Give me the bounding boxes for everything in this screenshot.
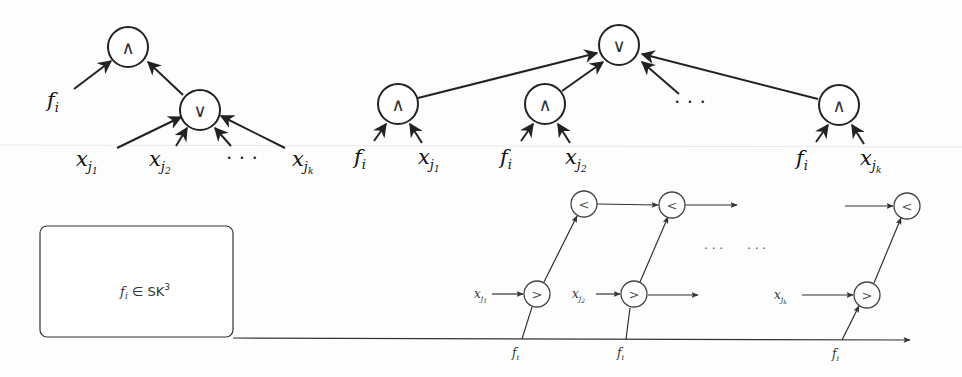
edge-xk-to-andk xyxy=(852,125,864,144)
edge-x2-to-or xyxy=(176,128,187,146)
label-ellipsis: · · · xyxy=(674,90,706,114)
label-x-jk: xjk xyxy=(860,146,881,175)
edge-gt1-to-lt1 xyxy=(544,216,577,282)
sk3-box xyxy=(40,226,233,337)
gt-comparator-node-k: > xyxy=(854,282,880,308)
or-gate-node: ∨ xyxy=(599,25,639,65)
diagram-canvas: ∧ ∨ fi xj1 xj2 · · · xjk ∨ ∧ xyxy=(0,0,962,377)
edge-x1-to-and1 xyxy=(410,124,422,143)
and-gate-node: ∧ xyxy=(108,27,148,67)
label-x-j2: xj2 xyxy=(565,145,587,174)
gt-comparator-node-2: > xyxy=(621,281,647,307)
and-operator: ∧ xyxy=(391,94,404,115)
panel-factored-circuit: ∧ ∨ fi xj1 xj2 · · · xjk xyxy=(45,27,313,176)
or-operator: ∨ xyxy=(193,100,206,121)
label-f-i: fi xyxy=(498,145,512,172)
edge-xk-to-or xyxy=(221,116,285,148)
or-gate-node: ∨ xyxy=(180,90,220,130)
and-operator: ∧ xyxy=(832,95,845,116)
label-x-jk: xjk xyxy=(292,147,313,176)
ellipsis-1: · · · xyxy=(704,242,723,256)
edge-lt1-to-lt2 xyxy=(597,204,658,205)
gt-operator: > xyxy=(862,288,873,303)
and-gate-node-1: ∧ xyxy=(378,84,418,124)
gt-operator: > xyxy=(629,287,640,302)
label-f-i: fi xyxy=(616,346,624,362)
lt-comparator-node-1: < xyxy=(571,191,597,217)
edge-andk-to-or xyxy=(642,54,818,99)
label-x-jk: xjk xyxy=(774,288,787,305)
edge-x2-to-and2 xyxy=(558,124,570,143)
or-operator: ∨ xyxy=(612,35,625,56)
label-x-j2: xj2 xyxy=(149,147,171,176)
label-f-i: fi xyxy=(831,347,839,363)
baseline-arrow xyxy=(233,338,910,340)
edge-gt2-to-lt2 xyxy=(640,217,668,282)
edge-f-to-and1 xyxy=(374,124,386,141)
and-gate-node-2: ∧ xyxy=(525,84,565,124)
label-x-j1: xj1 xyxy=(418,145,440,174)
panel-expanded-circuit: ∨ ∧ ∧ ∧ · · · fi xj1 fi xj2 fi xjk xyxy=(352,25,881,175)
edge-x1-to-or xyxy=(117,117,181,148)
panel-comparator-chain: fi ∈ SK3 < < < xyxy=(40,191,920,363)
and-operator: ∧ xyxy=(121,37,134,58)
edge-f-to-andk xyxy=(816,125,828,142)
edge-and2-to-or xyxy=(562,62,603,91)
label-x-j2: xj2 xyxy=(572,287,585,304)
label-f-i: fi xyxy=(352,145,366,172)
edge-f-to-and xyxy=(74,61,111,89)
edge-or-to-and xyxy=(148,62,183,95)
gt-operator: > xyxy=(532,287,543,302)
label-f-i: fi xyxy=(45,88,59,115)
lt-operator: < xyxy=(579,197,590,212)
lt-operator: < xyxy=(667,198,678,213)
edge-gtk-to-ltk xyxy=(874,218,901,283)
scan-artifact-line xyxy=(0,145,962,147)
lt-comparator-node-k: < xyxy=(894,193,920,219)
edge-f-to-gt1 xyxy=(522,307,532,339)
label-x-j1: xj1 xyxy=(76,147,98,176)
label-f-i: fi xyxy=(511,346,519,362)
edge-f-to-gtk xyxy=(842,306,859,340)
edge-dots-to-or xyxy=(215,128,231,146)
and-gate-node-k: ∧ xyxy=(819,85,859,125)
label-x-j1: xj1 xyxy=(474,287,487,304)
ellipsis-2: · · · xyxy=(747,242,766,256)
lt-operator: < xyxy=(902,199,913,214)
edge-f-to-and2 xyxy=(521,124,533,141)
diagram-svg: ∧ ∨ fi xj1 xj2 · · · xjk ∨ ∧ xyxy=(0,0,962,377)
lt-comparator-node-2: < xyxy=(659,192,685,218)
gt-comparator-node-1: > xyxy=(524,281,550,307)
and-operator: ∧ xyxy=(538,94,551,115)
label-f-i: fi xyxy=(794,146,808,173)
edge-f-to-gt2 xyxy=(626,308,630,339)
label-ellipsis: · · · xyxy=(226,146,258,170)
edge-and1-to-or xyxy=(418,53,597,98)
